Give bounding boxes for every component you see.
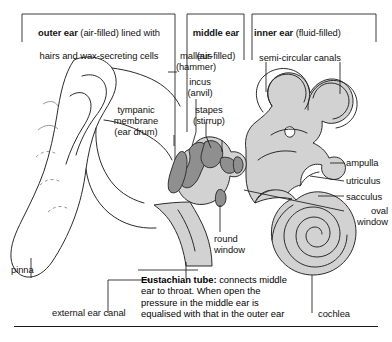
outer-ear-line2: hairs and wax-secreting cells xyxy=(40,50,159,61)
label-incus: incus (anvil) xyxy=(176,76,224,98)
label-semi-circular-canals: semi-circular canals xyxy=(259,52,367,63)
label-utriculus: utriculus xyxy=(346,175,392,186)
outer-ear-rest: (air-filled) lined with xyxy=(78,27,160,38)
label-external-ear-canal: external ear canal xyxy=(52,307,148,318)
label-tympanic-membrane: tympanic membrane (ear drum) xyxy=(104,104,168,138)
eustachian-tube-line1: connects middle xyxy=(217,274,287,285)
inner-ear-bold: inner ear xyxy=(254,27,293,38)
inner-ear-rest: (fluid-filled) xyxy=(293,27,341,38)
bottom-divider-rule xyxy=(14,326,378,327)
eustachian-tube-bold: Eustachian tube: xyxy=(141,274,217,285)
outer-ear-pinna xyxy=(11,57,116,277)
bracket-label-outer-ear: outer ear (air-filled) lined with hairs … xyxy=(18,16,180,62)
label-pinna: pinna xyxy=(11,264,53,275)
ear-anatomy-diagram: .ln{stroke:#1a1a1a;stroke-width:0.85;fil… xyxy=(0,0,392,342)
eustachian-tube-caption: Eustachian tube: connects middle ear to … xyxy=(141,274,337,320)
bracket-label-inner-ear: inner ear (fluid-filled) xyxy=(254,16,384,39)
eustachian-tube-line3: pressure in the middle ear is xyxy=(141,297,259,308)
label-stapes: stapes (stirrup) xyxy=(182,104,236,126)
label-malleus: malleus (hammer) xyxy=(168,50,224,72)
outer-ear-bold: outer ear xyxy=(38,27,78,38)
eustachian-tube-line4: equalised with that in the outer ear xyxy=(141,308,284,319)
middle-ear-bold: middle ear xyxy=(193,27,239,38)
label-ampulla: ampulla xyxy=(346,157,392,168)
label-oval-window: oval window xyxy=(336,205,388,227)
eustachian-tube xyxy=(154,202,212,266)
label-round-window: round window xyxy=(214,233,266,255)
label-sacculus: sacculus xyxy=(346,191,392,202)
eustachian-tube-line2: ear to throat. When open the xyxy=(141,285,260,296)
